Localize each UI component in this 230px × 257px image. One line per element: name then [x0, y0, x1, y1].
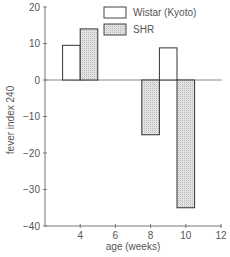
x-tick-label: 8 [148, 230, 154, 241]
y-tick-label: 0 [34, 75, 40, 86]
y-tick-label: −40 [23, 221, 40, 232]
y-tick-label: 10 [29, 38, 41, 49]
x-tick-label: 12 [215, 230, 227, 241]
chart: 20100−10−20−30−404681012 fever index 240… [0, 0, 230, 257]
legend-label-wistar: Wistar (Kyoto) [133, 7, 196, 18]
y-tick-label: 20 [29, 2, 41, 13]
x-axis-label: age (weeks) [106, 241, 160, 252]
bar-wistar [159, 48, 177, 80]
bar-wistar [63, 45, 81, 80]
bar-shr [80, 29, 98, 80]
legend-label-shr: SHR [133, 24, 154, 35]
legend-swatch-wistar [104, 7, 126, 18]
bar-shr [142, 80, 160, 135]
y-tick-label: −20 [23, 148, 40, 159]
y-tick-label: −30 [23, 184, 40, 195]
x-tick-label: 4 [77, 230, 83, 241]
legend: Wistar (Kyoto) SHR [104, 7, 196, 35]
plot-area: 20100−10−20−30−404681012 [23, 2, 227, 242]
y-tick-label: −10 [23, 111, 40, 122]
y-axis-label: fever index 240 [5, 85, 16, 154]
legend-swatch-shr [104, 24, 126, 35]
x-tick-label: 6 [113, 230, 119, 241]
bar-shr [177, 80, 195, 208]
x-tick-label: 10 [180, 230, 192, 241]
